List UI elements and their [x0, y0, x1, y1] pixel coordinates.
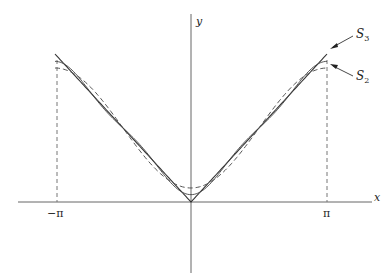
s2-label: S [356, 69, 364, 83]
tick-pi: π [323, 207, 330, 220]
svg-text:S3: S3 [356, 27, 369, 43]
y-axis-label: y [195, 15, 203, 28]
fourier-series-diagram: −π π x y S3 S2 [0, 0, 389, 273]
s3-subscript: 3 [364, 34, 369, 43]
s3-annotation: S3 [330, 27, 369, 49]
tick-neg-pi: −π [47, 207, 63, 220]
s3-label: S [356, 27, 364, 41]
x-axis-label: x [374, 191, 381, 204]
s2-annotation: S2 [330, 64, 369, 85]
s2-subscript: 2 [364, 76, 369, 85]
svg-text:S2: S2 [356, 69, 369, 85]
arrowhead-icon [330, 43, 338, 49]
